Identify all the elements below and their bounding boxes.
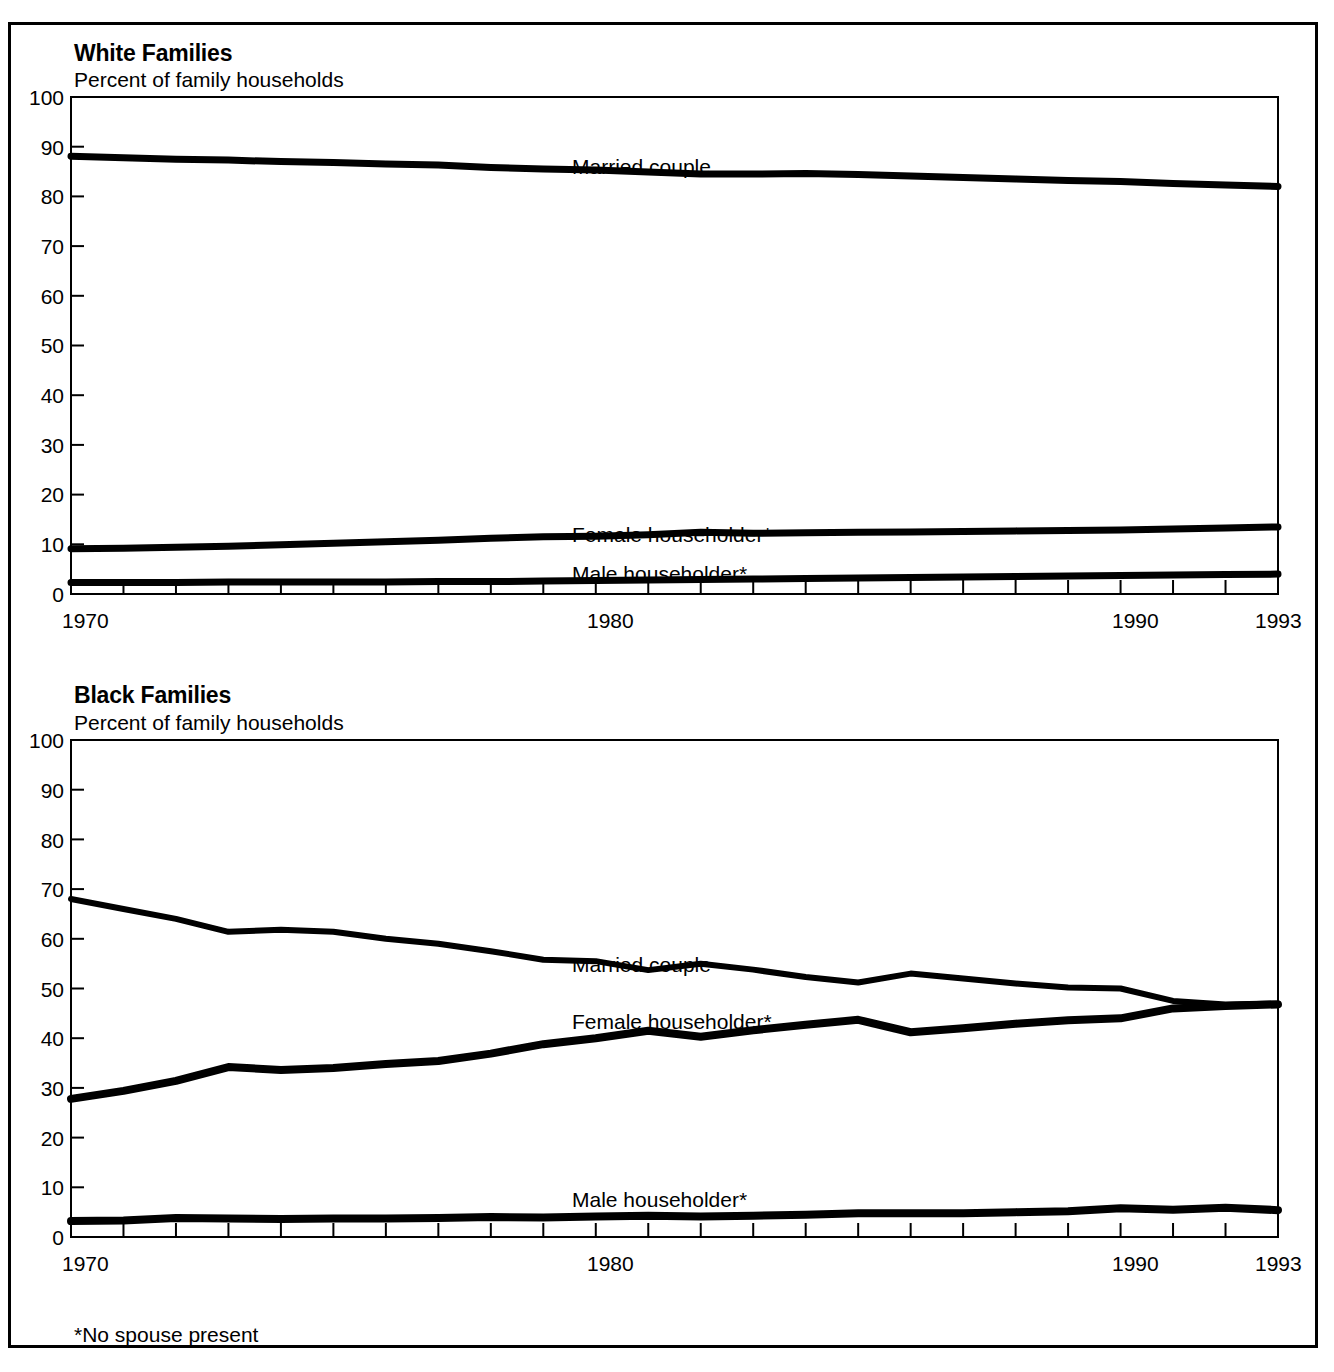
ytick-label-black-20: 20 — [11, 1128, 64, 1149]
series-label-married-black: Married couple — [572, 954, 711, 975]
series-line-married-black — [71, 899, 1278, 1004]
xtick-label-black-1980: 1980 — [587, 1253, 634, 1274]
series-label-married-white: Married couple — [572, 156, 711, 177]
ytick-label-black-40: 40 — [11, 1028, 64, 1049]
panel-title-white: White Families — [74, 40, 232, 67]
xtick-label-black-1990: 1990 — [1112, 1253, 1159, 1274]
ytick-label-white-0: 0 — [11, 584, 64, 605]
ytick-label-white-90: 90 — [11, 137, 64, 158]
y-tick-marks-black — [71, 790, 84, 1188]
plot-svg-black — [71, 740, 1278, 1237]
ytick-label-black-10: 10 — [11, 1177, 64, 1198]
xtick-label-white-1990: 1990 — [1112, 610, 1159, 631]
ytick-label-black-80: 80 — [11, 830, 64, 851]
xtick-label-black-1970: 1970 — [62, 1253, 109, 1274]
ytick-label-black-100: 100 — [11, 730, 64, 751]
ytick-label-white-70: 70 — [11, 236, 64, 257]
ytick-label-white-20: 20 — [11, 484, 64, 505]
series-label-female-black: Female householder* — [572, 1011, 772, 1032]
figure-frame: White Families Percent of family househo… — [8, 22, 1318, 1348]
ytick-label-white-100: 100 — [11, 87, 64, 108]
ytick-label-white-60: 60 — [11, 286, 64, 307]
ytick-label-black-60: 60 — [11, 929, 64, 950]
ytick-label-black-50: 50 — [11, 979, 64, 1000]
plot-area-black — [71, 740, 1278, 1237]
series-label-male-black: Male householder* — [572, 1189, 747, 1210]
ytick-label-white-50: 50 — [11, 335, 64, 356]
ytick-label-white-80: 80 — [11, 186, 64, 207]
panel-title-black: Black Families — [74, 682, 231, 709]
ytick-label-black-90: 90 — [11, 780, 64, 801]
x-tick-marks-black — [71, 1223, 1278, 1237]
ytick-label-black-70: 70 — [11, 879, 64, 900]
panel-subtitle-white: Percent of family households — [74, 68, 344, 92]
ytick-label-black-30: 30 — [11, 1078, 64, 1099]
ytick-label-white-40: 40 — [11, 385, 64, 406]
panel-black-families: Black Families Percent of family househo… — [11, 670, 1315, 1351]
ytick-label-white-30: 30 — [11, 435, 64, 456]
series-label-male-white: Male householder* — [572, 563, 747, 584]
figure-footnote: *No spouse present — [74, 1323, 258, 1347]
ytick-label-white-10: 10 — [11, 534, 64, 555]
panel-white-families: White Families Percent of family househo… — [11, 25, 1315, 665]
series-label-female-white: Female householder* — [572, 524, 772, 545]
xtick-label-black-1993: 1993 — [1255, 1253, 1302, 1274]
y-tick-marks-white — [71, 147, 84, 545]
xtick-label-white-1980: 1980 — [587, 610, 634, 631]
xtick-label-white-1970: 1970 — [62, 610, 109, 631]
panel-subtitle-black: Percent of family households — [74, 711, 344, 735]
xtick-label-white-1993: 1993 — [1255, 610, 1302, 631]
ytick-label-black-0: 0 — [11, 1227, 64, 1248]
